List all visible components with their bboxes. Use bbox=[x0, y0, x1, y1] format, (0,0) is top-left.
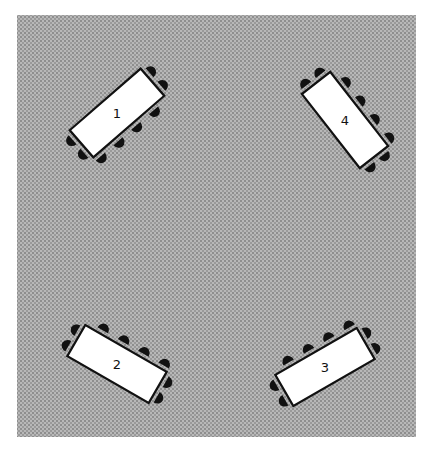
table-label: 2 bbox=[113, 357, 121, 372]
table-label: 3 bbox=[321, 360, 329, 375]
table-label: 1 bbox=[113, 106, 121, 121]
table-label: 4 bbox=[341, 113, 349, 128]
seating-diagram: 1 2 3 4 bbox=[0, 0, 433, 453]
room-floor bbox=[17, 15, 416, 437]
